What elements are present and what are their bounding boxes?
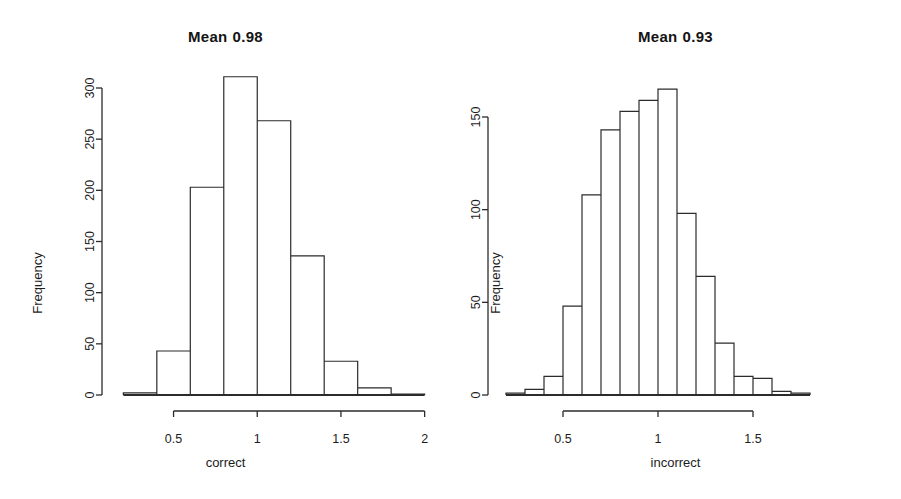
plot-area-right: 0501001500.511.5 [450, 0, 901, 499]
x-axis-tick-label: 0.5 [165, 432, 182, 446]
plot-area-left: 0501001502002503000.511.52 [0, 0, 451, 499]
y-axis-tick-label: 0 [83, 391, 97, 398]
y-axis-tick-label: 100 [469, 199, 483, 220]
y-axis-label-left: Frequency [30, 252, 45, 313]
x-axis-label-left: correct [0, 455, 451, 470]
y-axis-tick-label: 50 [469, 295, 483, 309]
x-axis-tick-label: 1 [254, 432, 261, 446]
y-axis-tick-label: 250 [83, 129, 97, 150]
histogram-panel-correct: Mean0.98 0501001502002503000.511.52 corr… [0, 0, 451, 499]
x-axis-tick-label: 2 [421, 432, 428, 446]
y-axis-tick-label: 100 [83, 282, 97, 303]
y-axis-tick-label: 300 [83, 78, 97, 99]
y-axis-label-right: Frequency [488, 252, 503, 313]
histogram-bars [506, 89, 810, 395]
y-axis-tick-label: 50 [83, 337, 97, 351]
figure-canvas: Mean0.98 0501001502002503000.511.52 corr… [0, 0, 901, 499]
y-axis-tick-label: 150 [469, 107, 483, 128]
y-axis-tick-label: 0 [469, 391, 483, 398]
x-axis-tick-label: 1.5 [744, 432, 761, 446]
x-axis-tick-label: 1 [655, 432, 662, 446]
histogram-panel-incorrect: Mean0.93 0501001500.511.5 incorrect Freq… [450, 0, 901, 499]
y-axis-tick-label: 150 [83, 231, 97, 252]
y-axis-tick-label: 200 [83, 180, 97, 201]
x-axis-label-right: incorrect [450, 455, 901, 470]
x-axis-tick-label: 1.5 [332, 432, 349, 446]
x-axis-tick-label: 0.5 [554, 432, 571, 446]
histogram-bars [123, 77, 424, 395]
